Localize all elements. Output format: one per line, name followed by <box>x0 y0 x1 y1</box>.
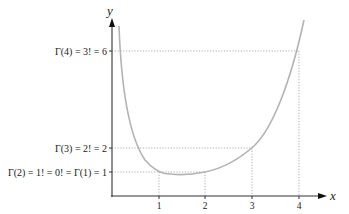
y-label-gamma12: Γ(2) = 1! = 0! = Γ(1) = 1 <box>8 167 107 179</box>
y-axis-label: y <box>105 3 113 18</box>
x-tick-1: 1 <box>157 201 162 211</box>
y-axis-arrow-icon <box>109 18 115 27</box>
y-label-gamma4: Γ(4) = 3! = 6 <box>55 46 107 58</box>
x-tick-2: 2 <box>203 201 208 211</box>
y-label-gamma3: Γ(3) = 2! = 2 <box>55 143 107 155</box>
gamma-curve <box>119 20 304 174</box>
axes <box>109 18 327 199</box>
x-tick-4: 4 <box>297 201 302 211</box>
x-axis-arrow-icon <box>318 193 327 199</box>
gamma-function-chart: y x Γ(4) = 3! = 6 Γ(3) = 2! = 2 Γ(2) = 1… <box>0 0 349 214</box>
x-axis-label: x <box>329 188 336 203</box>
x-tick-3: 3 <box>250 201 255 211</box>
